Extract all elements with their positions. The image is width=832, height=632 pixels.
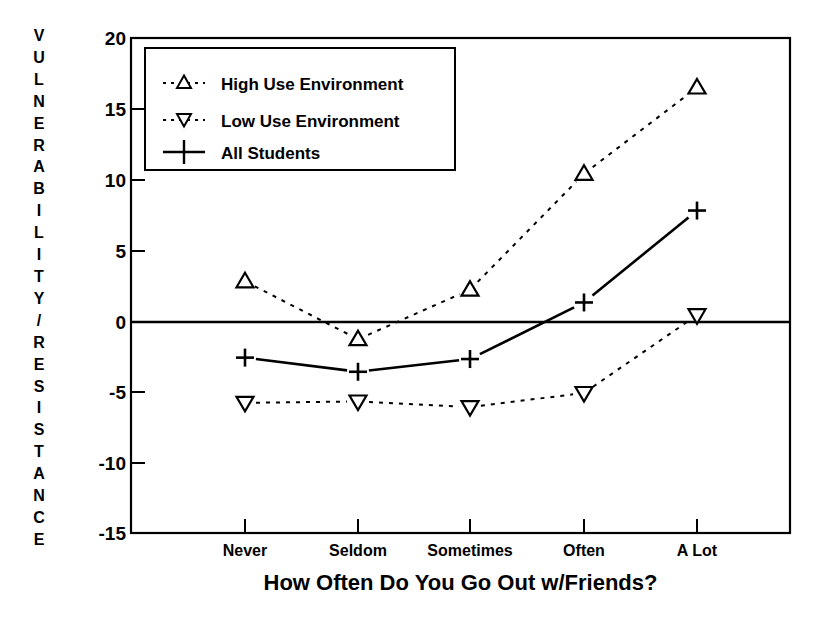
marker-plus-icon — [575, 293, 593, 311]
marker-triangle-up-icon — [237, 273, 254, 288]
marker-triangle-up-icon — [350, 331, 367, 346]
y-axis-ticks — [131, 109, 145, 463]
marker-triangle-down-icon — [350, 396, 367, 411]
x-axis-ticks — [245, 519, 697, 533]
series-line-dashed — [368, 294, 460, 335]
marker-plus-icon — [461, 350, 479, 368]
plot-area: High Use Environment Low Use Environment… — [0, 0, 832, 632]
series-line-solid — [593, 218, 689, 296]
marker-plus-icon — [688, 202, 706, 220]
series-line-dashed — [369, 402, 459, 407]
legend-label: All Students — [221, 144, 320, 163]
series-line-dashed — [256, 402, 347, 403]
series-line-solid — [256, 359, 347, 370]
series-line-dashed — [593, 94, 689, 167]
series-line-dashed — [255, 286, 348, 334]
marker-triangle-up-icon — [689, 79, 706, 94]
series-line-solid — [369, 360, 459, 370]
chart-figure: V U L N E R A B I L I T Y / R E S I S T … — [0, 0, 832, 632]
marker-plus-icon — [236, 349, 254, 367]
legend: High Use Environment Low Use Environment… — [145, 48, 455, 170]
legend-label: Low Use Environment — [221, 112, 400, 131]
marker-triangle-down-icon — [237, 397, 254, 412]
marker-plus-icon — [349, 363, 367, 381]
series-line-solid — [480, 307, 574, 354]
series-line-dashed — [478, 182, 577, 282]
marker-triangle-up-icon — [576, 165, 593, 180]
marker-triangle-up-icon — [462, 281, 479, 296]
series-line-dashed — [481, 394, 573, 406]
marker-triangle-down-icon — [576, 387, 593, 402]
series-line-dashed — [593, 321, 688, 386]
marker-triangle-down-icon — [462, 401, 479, 416]
legend-label: High Use Environment — [221, 75, 404, 94]
